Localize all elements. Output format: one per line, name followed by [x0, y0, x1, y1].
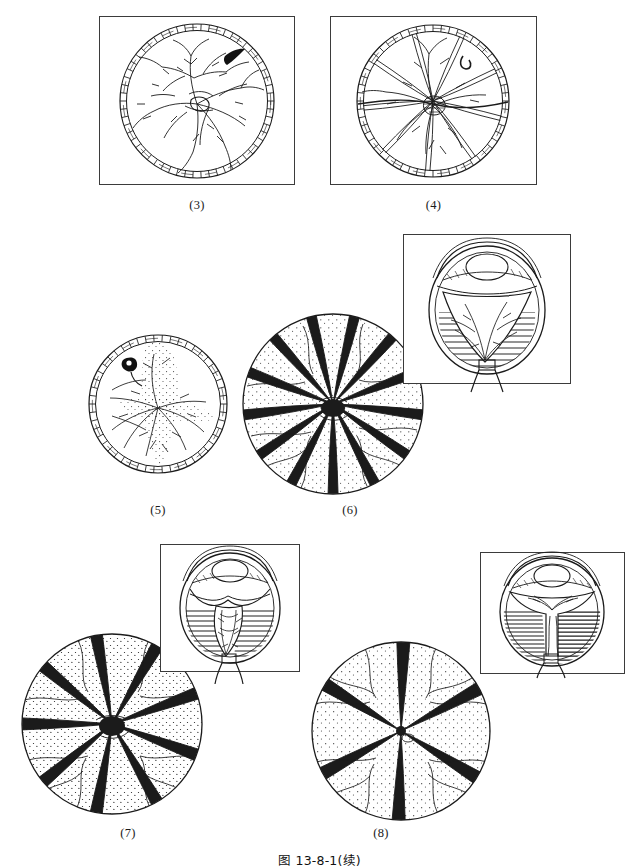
panel-7-label: (7)	[58, 826, 198, 841]
figure-caption: 图 13-8-1(续)	[0, 850, 639, 868]
panel-6-fundus	[239, 310, 427, 498]
panel-8-label: (8)	[311, 826, 451, 841]
retinal-vessels	[358, 33, 508, 171]
panel-8-fundus	[308, 638, 494, 824]
panel-8-inset-eye-cross-section	[480, 552, 625, 674]
panel-4-fundus	[330, 16, 537, 185]
panel-3-fundus	[99, 16, 295, 185]
panel-7-inset-eye-cross-section	[160, 544, 300, 672]
panel-6-label: (6)	[280, 503, 420, 518]
panel-5-label: (5)	[88, 503, 228, 518]
retinal-hook-marker	[461, 56, 471, 69]
closed-funnel-folds	[312, 642, 490, 820]
panel-5-fundus	[88, 328, 228, 488]
retinal-tear-marker	[224, 49, 245, 65]
panel-3-label: (3)	[99, 198, 295, 213]
figure-sheet: (3)	[0, 0, 639, 868]
panel-6-inset-eye-cross-section	[403, 234, 571, 384]
star-fold-detachment	[243, 314, 423, 494]
panel-4-label: (4)	[330, 198, 537, 213]
